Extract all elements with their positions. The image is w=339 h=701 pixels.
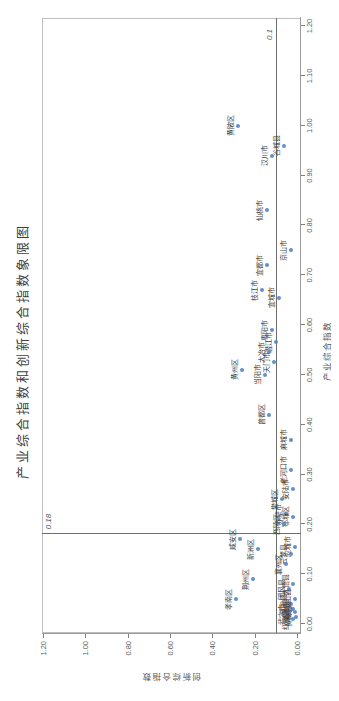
data-point bbox=[291, 487, 295, 491]
rotated-chart-canvas: 产业综合指数和创新综合指数象限图 产业综合指数 创新综合指数 0.000.100… bbox=[0, 0, 339, 701]
x-tick-label: 0.80 bbox=[305, 218, 314, 233]
data-point-label: 仙桃市 bbox=[256, 200, 263, 221]
data-point bbox=[270, 154, 274, 158]
y-tick-mark bbox=[43, 634, 44, 638]
y-tick-mark bbox=[297, 634, 298, 638]
data-point bbox=[272, 360, 276, 364]
data-point-label: 荆州区 bbox=[242, 569, 249, 590]
x-tick-label: 1.00 bbox=[305, 118, 314, 133]
data-point-label: 黄州区 bbox=[231, 359, 238, 380]
data-point-label: 孝南区 bbox=[225, 589, 232, 610]
data-point bbox=[265, 208, 269, 212]
data-point-label: 当阳市 bbox=[254, 364, 261, 385]
x-tick-label: 0.70 bbox=[305, 268, 314, 283]
data-point bbox=[280, 497, 284, 501]
x-tick-label: 1.20 bbox=[305, 19, 314, 34]
data-point-label: 新洲区 bbox=[247, 539, 254, 560]
y-tick-label: 0.40 bbox=[208, 641, 217, 701]
ref-line-y-label: 0.1 bbox=[265, 29, 274, 40]
data-point bbox=[282, 522, 286, 526]
data-point bbox=[240, 368, 244, 372]
x-tick-label: 1.10 bbox=[305, 69, 314, 84]
data-point bbox=[263, 373, 267, 377]
data-point bbox=[289, 468, 293, 472]
data-point-label: 麻城市 bbox=[280, 429, 287, 450]
data-point bbox=[291, 515, 295, 519]
data-point bbox=[234, 597, 238, 601]
data-point-label: 红安县 bbox=[282, 609, 289, 630]
data-point bbox=[267, 413, 271, 417]
y-tick-mark bbox=[255, 634, 256, 638]
data-point bbox=[284, 562, 288, 566]
data-point-label: 京山市 bbox=[280, 240, 287, 261]
x-tick-label: 0.60 bbox=[305, 318, 314, 333]
x-tick-label: 0.50 bbox=[305, 368, 314, 383]
chart-title: 产业综合指数和创新综合指数象限图 bbox=[12, 223, 31, 479]
data-point-label: 咸安区 bbox=[229, 529, 236, 550]
x-axis-title: 产业综合指数 bbox=[320, 321, 332, 381]
y-tick-label: 0.80 bbox=[123, 641, 132, 701]
data-point bbox=[251, 577, 255, 581]
y-tick-label: 1.20 bbox=[38, 641, 47, 701]
y-tick-label: 0.60 bbox=[165, 641, 174, 701]
data-point bbox=[293, 545, 297, 549]
x-tick-label: 0.40 bbox=[305, 417, 314, 432]
data-point bbox=[277, 296, 281, 300]
data-point-label: 黄陂区 bbox=[227, 115, 234, 136]
y-axis-line bbox=[42, 633, 301, 634]
data-point bbox=[293, 597, 297, 601]
data-point bbox=[274, 340, 278, 344]
data-point bbox=[289, 248, 293, 252]
y-tick-label: 0.20 bbox=[250, 641, 259, 701]
data-point-label: 曾都区 bbox=[258, 404, 265, 425]
data-point bbox=[293, 610, 297, 614]
x-tick-label: 0.00 bbox=[305, 617, 314, 632]
y-tick-label: 0.00 bbox=[293, 641, 302, 701]
data-point-label: 宜城市 bbox=[268, 287, 275, 308]
y-tick-label: 1.00 bbox=[81, 641, 90, 701]
data-point-label: 谷城县 bbox=[273, 135, 280, 156]
data-point bbox=[289, 552, 293, 556]
data-point bbox=[256, 547, 260, 551]
y-tick-mark bbox=[212, 634, 213, 638]
x-tick-label: 0.90 bbox=[305, 168, 314, 183]
page-root: 产业综合指数和创新综合指数象限图 产业综合指数 创新综合指数 0.000.100… bbox=[0, 0, 339, 701]
data-point bbox=[291, 617, 295, 621]
data-point-label: 宜都市 bbox=[256, 255, 263, 276]
x-tick-label: 0.10 bbox=[305, 567, 314, 582]
data-point-label: 西陵区 bbox=[273, 514, 280, 535]
ref-line-y bbox=[276, 18, 277, 633]
data-point-label: 枝江市 bbox=[251, 280, 258, 301]
x-tick-label: 0.20 bbox=[305, 517, 314, 532]
data-point-label: 襄州区 bbox=[275, 554, 282, 575]
y-tick-mark bbox=[128, 634, 129, 638]
data-point bbox=[291, 582, 295, 586]
x-tick-label: 0.30 bbox=[305, 467, 314, 482]
y-tick-mark bbox=[85, 634, 86, 638]
data-point bbox=[265, 263, 269, 267]
y-tick-mark bbox=[170, 634, 171, 638]
ref-line-x-label: 0.18 bbox=[44, 514, 53, 530]
data-point bbox=[282, 144, 286, 148]
data-point bbox=[236, 124, 240, 128]
ref-line-x bbox=[42, 533, 301, 534]
data-point bbox=[238, 537, 242, 541]
data-point bbox=[289, 438, 293, 442]
data-point bbox=[260, 288, 264, 292]
data-point-label: 天门市 bbox=[263, 352, 270, 373]
data-point-label: 汉川市 bbox=[261, 145, 268, 166]
